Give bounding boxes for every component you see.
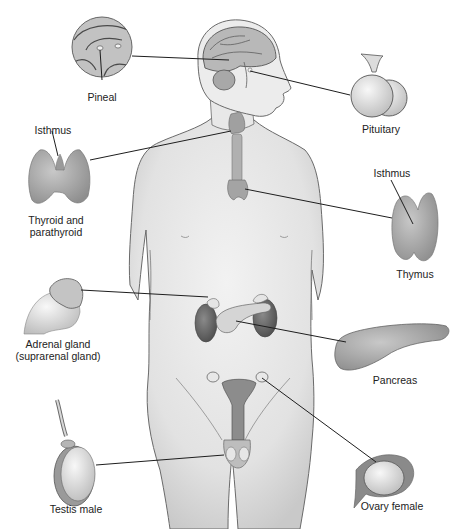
label-testis-male: Testis male <box>44 503 108 515</box>
trachea <box>232 134 242 182</box>
thymus-on-body <box>228 180 248 200</box>
label-pancreas: Pancreas <box>367 374 423 386</box>
thymus-inset <box>392 193 438 261</box>
label-pineal: Pineal <box>84 91 120 103</box>
label-adrenal-gland: Adrenal gland (suprarenal gland) <box>10 338 106 362</box>
testis-inset <box>54 400 95 506</box>
label-thyroid-parathyroid: Thyroid and parathyroid <box>24 214 88 238</box>
pituitary-inset <box>351 54 407 117</box>
label-thymus-isthmus: Isthmus <box>369 167 415 179</box>
cerebellum <box>213 70 235 90</box>
endocrine-diagram <box>0 0 462 529</box>
adrenal-inset <box>24 279 83 334</box>
thyroid-inset <box>29 150 90 204</box>
human-body-figure <box>129 20 323 529</box>
kidney-left <box>195 304 217 342</box>
ovary-left-on-body <box>207 372 219 382</box>
label-thymus: Thymus <box>393 268 437 280</box>
label-thyroid-isthmus: Isthmus <box>30 124 76 136</box>
pineal-inset <box>72 17 132 77</box>
testis-right-on-body <box>239 447 249 461</box>
label-ovary-female: Ovary female <box>356 500 428 512</box>
label-pituitary: Pituitary <box>356 123 406 135</box>
testis-left-on-body <box>226 447 236 461</box>
pancreas-inset <box>335 324 449 370</box>
thyroid-on-body <box>229 112 245 134</box>
